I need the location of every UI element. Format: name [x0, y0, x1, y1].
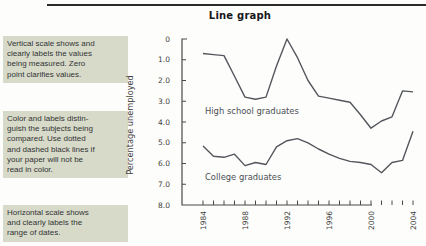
y-tick-label: 8.0	[158, 201, 170, 210]
x-tick-label: 2004	[409, 211, 418, 230]
series-label-high-school: High school graduates	[205, 106, 299, 116]
callout-horizontal-scale: Horizontal scale shows and clearly label…	[3, 205, 128, 242]
y-tick-label: 2.0	[158, 76, 170, 85]
y-tick-label: 5.0	[158, 138, 170, 147]
figure-page: Line graph Vertical scale shows and clea…	[0, 0, 426, 246]
top-rule	[47, 4, 426, 6]
line-chart: 8.07.06.05.04.03.02.01.00198419881992199…	[120, 30, 426, 246]
y-axis-title: Percentage unemployed	[125, 75, 135, 175]
x-tick-label: 2000	[367, 211, 376, 230]
y-tick-label: 1.0	[158, 55, 170, 64]
x-tick-label: 1992	[283, 211, 292, 230]
callout-vertical-scale: Vertical scale shows and clearly labels …	[3, 36, 128, 83]
y-tick-label: 3.0	[158, 97, 170, 106]
series-label-college: College graduates	[205, 172, 281, 182]
y-tick-label: 4.0	[158, 118, 170, 127]
x-tick-label: 1988	[241, 211, 250, 230]
y-tick-label: 0	[165, 35, 170, 44]
x-tick-label: 1996	[325, 211, 334, 230]
page-title: Line graph	[150, 10, 330, 21]
y-tick-label: 7.0	[158, 180, 170, 189]
series-line-college	[203, 131, 413, 173]
x-tick-label: 1984	[199, 211, 208, 230]
y-tick-label: 6.0	[158, 159, 170, 168]
callout-color-and-labels: Color and labels distin- guish the subje…	[3, 111, 128, 178]
